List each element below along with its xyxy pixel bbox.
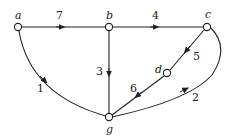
node-label-c: c	[205, 9, 211, 20]
weight-label-c-d: 5	[193, 51, 200, 62]
node-label-d: d	[155, 64, 162, 75]
node-d	[163, 69, 170, 76]
graph-diagram: a b c d g 7 4 3 1 5 6 2	[0, 0, 239, 139]
weight-label-d-g: 6	[130, 83, 137, 94]
weight-label-a-g: 1	[37, 83, 44, 94]
weight-label-g-c: 2	[192, 92, 199, 103]
node-label-g: g	[106, 124, 113, 135]
weight-label-b-g: 3	[96, 66, 103, 77]
node-a	[14, 23, 21, 30]
node-c	[203, 23, 210, 30]
node-g	[105, 113, 112, 120]
edge-a-g	[19, 31, 106, 116]
weight-label-a-b: 7	[56, 10, 63, 21]
node-b	[105, 23, 112, 30]
weight-label-b-c: 4	[152, 10, 159, 21]
node-label-a: a	[15, 10, 22, 21]
graph-edges	[0, 0, 239, 139]
node-label-b: b	[106, 10, 113, 21]
edge-d-g	[112, 76, 164, 115]
